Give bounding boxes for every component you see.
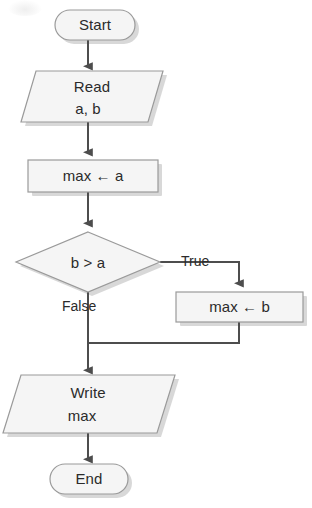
shapes — [3, 10, 303, 494]
node-read-shape — [21, 71, 163, 122]
node-maxa-shape — [28, 160, 158, 192]
scan-artifact — [8, 0, 42, 16]
edge-label-false: False — [62, 298, 96, 314]
node-start-shape — [55, 10, 135, 40]
node-decision-shape — [16, 232, 160, 292]
flowchart-canvas — [0, 0, 312, 508]
edge-label-true: True — [181, 253, 209, 269]
node-write-shape — [3, 375, 175, 433]
node-maxb-shape — [176, 292, 303, 322]
node-end-shape — [50, 464, 128, 494]
